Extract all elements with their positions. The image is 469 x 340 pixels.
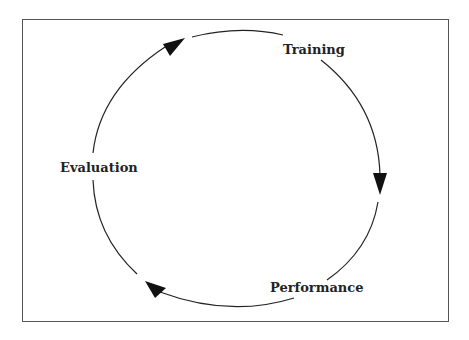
arc-evaluation-to-training (93, 47, 165, 153)
arc-training-to-performance (321, 60, 380, 175)
arrowhead-top-left-icon (163, 38, 185, 56)
arc-evaluation-to-training-top (192, 30, 283, 37)
arc-right-lower (327, 202, 378, 280)
node-evaluation: Evaluation (60, 160, 138, 175)
arc-left-lower (93, 180, 137, 274)
node-training: Training (283, 42, 345, 57)
arrowhead-right-icon (373, 173, 387, 195)
arrowhead-bottom-left-icon (145, 281, 166, 298)
node-performance: Performance (270, 280, 363, 295)
